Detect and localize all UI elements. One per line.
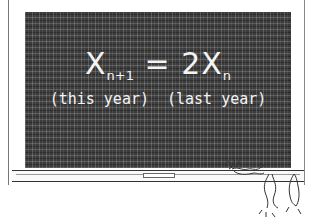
equation-operator: = [144,46,170,81]
chalk-piece [143,173,175,178]
equation-lhs-subscript: n+1 [107,68,134,83]
label-last-year: (last year) [167,90,266,108]
wall-line-left [8,0,9,185]
critters-drawing-icon [222,155,311,220]
equation: Xn+1 = 2Xn [25,46,291,94]
equation-labels: (this year) (last year) [25,90,291,108]
equation-coefficient: 2 [181,46,201,81]
chalkboard: Xn+1 = 2Xn (this year) (last year) [25,12,291,168]
label-this-year: (this year) [50,90,149,108]
equation-lhs: X [85,46,107,81]
equation-rhs: X [201,46,223,81]
equation-rhs-subscript: n [223,68,231,83]
